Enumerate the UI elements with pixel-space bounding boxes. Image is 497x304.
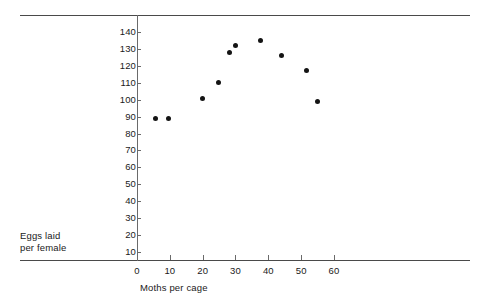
y-tick-label: 120 — [110, 61, 136, 71]
data-point — [153, 116, 158, 121]
x-tick-mark — [268, 255, 269, 260]
data-point — [279, 53, 284, 58]
y-tick-mark — [137, 184, 141, 185]
data-point — [258, 38, 263, 43]
y-tick-label: 140 — [110, 27, 136, 37]
x-tick-mark — [235, 255, 236, 260]
y-tick-label: 10 — [110, 247, 136, 257]
y-tick-mark — [137, 66, 141, 67]
y-tick-label: 20 — [110, 230, 136, 240]
y-axis-title: Eggs laid per female — [20, 230, 66, 253]
y-tick-label: 40 — [110, 196, 136, 206]
y-tick-label: 90 — [110, 112, 136, 122]
data-point — [233, 43, 238, 48]
y-tick-label: 60 — [110, 162, 136, 172]
plot-area — [0, 0, 497, 304]
y-tick-label: 50 — [110, 179, 136, 189]
y-tick-label: 130 — [110, 44, 136, 54]
x-tick-mark — [334, 255, 335, 260]
x-tick-label: 50 — [289, 266, 313, 276]
y-tick-mark — [137, 117, 141, 118]
data-point — [216, 80, 221, 85]
y-tick-mark — [137, 150, 141, 151]
y-tick-label: 100 — [110, 95, 136, 105]
y-tick-mark — [137, 83, 141, 84]
data-point — [166, 116, 171, 121]
y-tick-mark — [137, 252, 141, 253]
y-tick-mark — [137, 235, 141, 236]
data-point — [227, 50, 232, 55]
x-tick-mark — [301, 255, 302, 260]
x-axis-line — [20, 260, 470, 261]
data-point — [200, 96, 205, 101]
y-tick-mark — [137, 100, 141, 101]
x-tick-mark — [203, 255, 204, 260]
data-point — [304, 68, 309, 73]
x-tick-label: 30 — [223, 266, 247, 276]
y-tick-mark — [137, 167, 141, 168]
y-axis-title-line-1: Eggs laid — [20, 230, 66, 242]
scatter-plot-figure: 102030405060708090100110120130140 010203… — [0, 0, 497, 304]
x-tick-label: 60 — [322, 266, 346, 276]
y-axis-title-line-2: per female — [20, 242, 66, 254]
y-tick-mark — [137, 201, 141, 202]
y-tick-mark — [137, 218, 141, 219]
y-tick-mark — [137, 32, 141, 33]
y-tick-label: 30 — [110, 213, 136, 223]
y-tick-mark — [137, 49, 141, 50]
y-tick-label: 70 — [110, 145, 136, 155]
y-axis-line — [137, 15, 138, 261]
x-tick-label: 10 — [158, 266, 182, 276]
x-axis-title: Moths per cage — [140, 282, 208, 293]
x-tick-label: 20 — [191, 266, 215, 276]
top-horizontal-rule — [20, 15, 470, 16]
x-tick-label: 40 — [256, 266, 280, 276]
y-tick-label: 110 — [110, 78, 136, 88]
y-tick-label: 80 — [110, 129, 136, 139]
x-tick-mark — [170, 255, 171, 260]
x-tick-label: 0 — [125, 266, 149, 276]
data-point — [315, 99, 320, 104]
y-tick-mark — [137, 134, 141, 135]
